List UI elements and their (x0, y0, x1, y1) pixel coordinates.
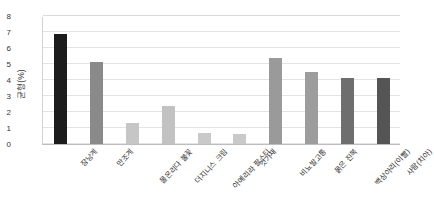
bar-series (43, 17, 400, 144)
y-tick-label: 7 (0, 29, 11, 37)
x-tick-label: 묽은 진복 (332, 147, 359, 175)
x-tick-label: 만조계 (114, 147, 135, 168)
x-tick-label: 물온리다 불꽃 (158, 147, 195, 185)
y-tick-label: 8 (0, 13, 11, 21)
plot-area (42, 17, 400, 145)
y-tick-label: 5 (0, 61, 11, 69)
y-tick-label: 0 (0, 141, 11, 149)
x-tick-label: 더지니스 크림 (193, 147, 230, 185)
bar (90, 62, 103, 144)
bar (341, 78, 354, 144)
bar (377, 78, 390, 144)
y-tick-label: 4 (0, 77, 11, 85)
bar (126, 123, 139, 144)
x-tick-label: 것가재 (258, 147, 279, 168)
y-tick-label: 1 (0, 125, 11, 133)
x-tick-label: 장낭계 (79, 147, 100, 168)
bar (54, 34, 67, 144)
bar (233, 134, 246, 144)
x-axis-labels: 장낭계만조계물온리다 불꽃더지니스 크림아예리라 팔스티것가재비뇨발고통묽은 진… (42, 147, 400, 217)
bar (305, 72, 318, 144)
y-axis-title: 균형(%) (14, 54, 26, 114)
x-tick-label: 비뇨발고통 (298, 147, 328, 179)
bar (162, 106, 175, 144)
y-tick-label: 6 (0, 45, 11, 53)
bar (269, 58, 282, 144)
x-tick-label: 백상아리(이빨) (373, 147, 412, 188)
y-tick-label: 3 (0, 93, 11, 101)
gridline-8 (43, 15, 400, 16)
bar (198, 133, 211, 144)
y-tick-label: 2 (0, 109, 11, 117)
